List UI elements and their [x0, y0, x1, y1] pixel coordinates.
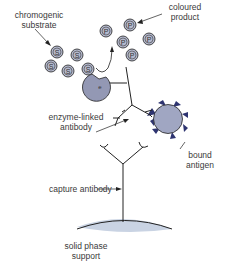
- svg-text:P: P: [104, 28, 109, 35]
- svg-text:S: S: [49, 63, 54, 70]
- coloured-product-arrow: [137, 14, 162, 24]
- substrate-molecule: S: [45, 60, 57, 72]
- substrate-molecules: S S S S S: [45, 46, 94, 77]
- svg-text:P: P: [147, 36, 152, 43]
- label-coloured-product: coloured product: [160, 2, 210, 22]
- product-molecule: P: [117, 36, 129, 48]
- label-capture-antibody: capture antibody: [49, 184, 99, 194]
- product-molecule: P: [126, 49, 138, 61]
- svg-text:P: P: [128, 22, 133, 29]
- label-bound-antigen: bound antigen: [180, 150, 220, 170]
- bound-antigen: [147, 100, 188, 139]
- label-enzyme-linked-antibody: enzyme-linked antibody: [46, 112, 106, 132]
- substrate-molecule: S: [82, 63, 94, 75]
- svg-text:S: S: [86, 66, 91, 73]
- label-solid-phase-support: solid phase support: [56, 241, 116, 261]
- svg-text:S: S: [66, 68, 71, 75]
- enzyme: e: [82, 74, 110, 101]
- product-molecules: P P P P P: [100, 19, 155, 61]
- product-molecule: P: [100, 25, 112, 37]
- svg-text:P: P: [130, 52, 135, 59]
- reaction-arrow: [96, 46, 114, 72]
- label-chromogenic-substrate: chromogenic substrate: [9, 10, 69, 30]
- substrate-molecule: S: [51, 46, 63, 58]
- enzyme-linked-antibody: [108, 67, 152, 126]
- svg-text:S: S: [55, 49, 60, 56]
- bound-antigen-arrow: [180, 142, 185, 149]
- chromogenic-substrate-arrow: [35, 29, 51, 46]
- product-molecule: P: [124, 19, 136, 31]
- substrate-molecule: S: [71, 49, 83, 61]
- svg-text:P: P: [121, 39, 126, 46]
- product-molecule: P: [143, 33, 155, 45]
- substrate-molecule: S: [62, 65, 74, 77]
- svg-text:S: S: [75, 52, 80, 59]
- capture-antibody: [100, 142, 148, 222]
- elisa-diagram: e S S S S S P P P P P: [0, 0, 225, 268]
